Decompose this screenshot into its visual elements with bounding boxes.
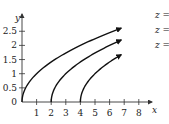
- x-tick-label: 1: [34, 108, 40, 118]
- y-tick-label: 1.5: [3, 55, 18, 65]
- y-tick-label: 1: [11, 69, 17, 79]
- x-tick-label: 8: [136, 108, 142, 118]
- x-tick-label: 4: [78, 108, 84, 118]
- axes: x y: [14, 13, 157, 115]
- curve-label-z-2: z = 2: [154, 25, 169, 35]
- y-tick-label: 0.5: [3, 83, 18, 93]
- y-tick-label: 0: [11, 97, 17, 107]
- level-curves-figure: x y 12345678 00.511.522.5 z = 0z = 2z = …: [0, 0, 169, 124]
- x-tick-label: 7: [121, 108, 127, 118]
- x-tick-label: 6: [107, 108, 113, 118]
- curves: z = 0z = 2z = 4: [22, 10, 169, 102]
- x-axis-label: x: [152, 105, 157, 115]
- curve-z-2: [51, 40, 121, 102]
- y-tick-label: 2: [11, 40, 17, 50]
- y-axis-label: y: [14, 13, 21, 23]
- x-tick-label: 5: [92, 108, 98, 118]
- curve-label-z-4: z = 4: [154, 40, 169, 50]
- curve-label-z-0: z = 0: [154, 10, 169, 20]
- curve-z-4: [80, 55, 121, 102]
- x-tick-label: 3: [63, 108, 69, 118]
- x-tick-label: 2: [48, 108, 54, 118]
- y-tick-label: 2.5: [3, 26, 18, 36]
